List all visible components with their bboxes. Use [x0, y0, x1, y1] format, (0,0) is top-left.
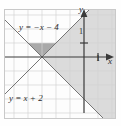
line1-equation-label: y = −x − 4	[19, 22, 59, 32]
coordinate-plot	[0, 0, 121, 126]
y-unit-tick-label: 1	[79, 27, 83, 36]
x-unit-tick-label: 1	[96, 54, 100, 63]
y-axis-label: y	[79, 4, 83, 14]
x-axis-label: x	[108, 56, 112, 66]
shaded-region-light	[5, 0, 115, 126]
graph-figure: y = −x − 4 y = x + 2 y x 1 1	[0, 0, 121, 126]
line2-equation-label: y = x + 2	[9, 93, 43, 103]
